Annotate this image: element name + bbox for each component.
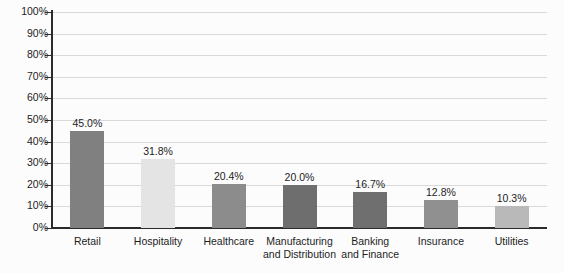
y-axis-tick-label: 40% [4, 136, 48, 147]
bar[interactable] [495, 206, 529, 228]
y-axis-tick [45, 98, 52, 99]
gridline [52, 55, 547, 56]
y-axis-tick-label: 80% [4, 49, 48, 60]
bar-group: 12.8% [407, 186, 475, 228]
bar-group: 31.8% [124, 145, 192, 228]
y-axis-tick-label: 70% [4, 71, 48, 82]
y-axis-tick-label: 30% [4, 157, 48, 168]
x-axis-category-label: Hospitality [119, 235, 197, 248]
x-axis-category-label-line: Retail [48, 235, 126, 248]
bar-group: 20.0% [266, 171, 334, 228]
x-axis-category-label: Manufacturingand Distribution [261, 235, 339, 260]
bar[interactable] [353, 192, 387, 228]
bar[interactable] [70, 131, 104, 228]
gridline [52, 12, 547, 13]
x-axis-category-label-line: Hospitality [119, 235, 197, 248]
bar-chart: 0%10%20%30%40%50%60%70%80%90%100% 45.0%R… [0, 0, 564, 273]
bar-value-label: 20.4% [195, 170, 263, 182]
y-axis-tick [45, 163, 52, 164]
x-axis-category-label-line: Healthcare [190, 235, 268, 248]
bar-value-label: 16.7% [336, 178, 404, 190]
y-axis-tick-label: 100% [4, 6, 48, 17]
y-axis-tick-label: 0% [4, 222, 48, 233]
x-axis-category-label-line: Banking [331, 235, 409, 248]
bar-value-label: 20.0% [266, 171, 334, 183]
gridline [52, 120, 547, 121]
bar[interactable] [283, 185, 317, 228]
y-axis-tick [45, 142, 52, 143]
bar-group: 20.4% [195, 170, 263, 228]
x-axis-category-label: Retail [48, 235, 126, 248]
bar-value-label: 10.3% [478, 192, 546, 204]
x-axis-category-label-line: Insurance [402, 235, 480, 248]
y-axis-tick [45, 34, 52, 35]
y-axis-tick [45, 12, 52, 13]
gridline [52, 98, 547, 99]
y-axis-tick [45, 77, 52, 78]
gridline [52, 142, 547, 143]
y-axis-tick-label: 10% [4, 200, 48, 211]
bar[interactable] [212, 184, 246, 228]
bar-value-label: 31.8% [124, 145, 192, 157]
y-axis-tick [45, 228, 52, 229]
y-axis-labels: 0%10%20%30%40%50%60%70%80%90%100% [0, 0, 48, 273]
x-axis-category-label: Utilities [473, 235, 551, 248]
bar[interactable] [141, 159, 175, 228]
bar-value-label: 12.8% [407, 186, 475, 198]
bar-group: 45.0% [53, 117, 121, 228]
x-axis-category-label-line: and Distribution [261, 248, 339, 261]
bar-value-label: 45.0% [53, 117, 121, 129]
y-axis-tick-label: 20% [4, 179, 48, 190]
x-axis-category-label-line: Manufacturing [261, 235, 339, 248]
y-axis-tick [45, 185, 52, 186]
y-axis-tick-label: 50% [4, 114, 48, 125]
gridline [52, 77, 547, 78]
y-axis-tick-label: 90% [4, 28, 48, 39]
y-axis-tick [45, 55, 52, 56]
bar[interactable] [424, 200, 458, 228]
x-axis-category-label: Insurance [402, 235, 480, 248]
y-axis-tick-label: 60% [4, 92, 48, 103]
y-axis-tick [45, 206, 52, 207]
y-axis-tick [45, 120, 52, 121]
x-axis-category-label: Bankingand Finance [331, 235, 409, 260]
bar-group: 16.7% [336, 178, 404, 228]
x-axis-category-label: Healthcare [190, 235, 268, 248]
x-axis-category-label-line: Utilities [473, 235, 551, 248]
x-axis-category-label-line: and Finance [331, 248, 409, 261]
gridline [52, 34, 547, 35]
bar-group: 10.3% [478, 192, 546, 228]
